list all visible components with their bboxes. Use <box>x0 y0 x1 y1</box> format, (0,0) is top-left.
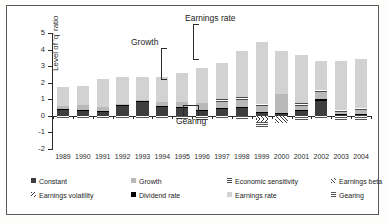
bar-segment-economic-sensitivity <box>315 90 327 92</box>
bar-segment-gearing <box>156 116 168 118</box>
bar-segment-gearing <box>116 116 128 118</box>
bar-segment-dividend-rate <box>275 113 287 114</box>
bar-segment-constant <box>216 109 228 116</box>
x-tick-mark <box>113 116 114 119</box>
bar-segment-gearing <box>236 116 248 119</box>
legend-item: Growth <box>131 177 162 185</box>
y-tick-label: -2 <box>25 145 45 153</box>
legend-item: Earnings volatility <box>31 191 93 199</box>
bar-group <box>355 33 367 149</box>
y-tick-label: 2 <box>25 79 45 87</box>
bar-segment-dividend-rate <box>236 107 248 108</box>
bar-segment-growth <box>57 106 69 109</box>
y-tick-mark <box>48 132 53 133</box>
legend-label: Dividend rate <box>139 192 180 199</box>
bar-segment-earnings-rate <box>315 61 327 90</box>
y-tick-mark <box>48 83 53 84</box>
bar-group <box>236 33 248 149</box>
bar-group <box>275 33 287 149</box>
x-tick-label: 2002 <box>311 153 331 160</box>
x-tick-label: 1996 <box>192 153 212 160</box>
chart-legend: ConstantGrowthEconomic sensitivityEarnin… <box>31 177 371 209</box>
bar-segment-gearing <box>335 116 347 120</box>
x-tick-mark <box>272 116 273 119</box>
bar-segment-constant <box>136 102 148 116</box>
bar-segment-gearing <box>355 116 367 120</box>
x-tick-mark <box>252 116 253 119</box>
bar-segment-earnings-rate <box>335 61 347 110</box>
bar-segment-gearing <box>256 122 268 127</box>
bar-segment-gearing <box>216 116 228 118</box>
legend-swatch-icon <box>31 178 36 183</box>
bar-group <box>295 33 307 149</box>
bar-segment-growth <box>275 94 287 113</box>
bar-segment-constant <box>156 106 168 116</box>
legend-swatch-icon <box>331 178 336 183</box>
bar-segment-earnings-rate <box>275 51 287 94</box>
y-tick-label: 5 <box>25 29 45 37</box>
x-tick-mark <box>152 116 153 119</box>
chart-screenshot: 543210-1-2 Level of 'q' ratio 1989199019… <box>0 0 387 223</box>
y-tick-label: 1 <box>25 95 45 103</box>
x-tick-mark <box>331 116 332 119</box>
bar-segment-constant <box>116 106 128 116</box>
bar-segment-constant <box>236 108 248 116</box>
bar-segment-growth <box>116 104 128 105</box>
annotation-earnings-rate: Earnings rate <box>185 13 236 23</box>
bar-segment-growth <box>156 102 168 105</box>
bar-segment-growth <box>315 92 327 99</box>
y-tick-mark <box>48 99 53 100</box>
x-tick-mark <box>232 116 233 119</box>
bar-group <box>256 33 268 149</box>
bar-segment-growth <box>355 110 367 113</box>
x-tick-label: 1999 <box>252 153 272 160</box>
x-tick-label: 1990 <box>73 153 93 160</box>
legend-item: Gearing <box>331 191 364 199</box>
x-tick-mark <box>73 116 74 119</box>
annotation-gearing: Gearing <box>176 116 206 126</box>
bar-segment-earnings-rate <box>97 79 109 107</box>
x-tick-mark <box>351 116 352 119</box>
x-tick-mark <box>172 116 173 119</box>
x-tick-mark <box>292 116 293 119</box>
bar-segment-gearing <box>295 116 307 120</box>
y-tick-label: 3 <box>25 62 45 70</box>
x-tick-label: 1995 <box>172 153 192 160</box>
bar-segment-dividend-rate <box>97 111 109 112</box>
x-tick-label: 2004 <box>351 153 371 160</box>
bar-segment-dividend-rate <box>77 110 89 111</box>
bar-segment-growth <box>256 106 268 112</box>
legend-label: Gearing <box>339 192 364 199</box>
x-tick-label: 1997 <box>212 153 232 160</box>
bar-segment-dividend-rate <box>156 106 168 107</box>
y-tick-label: 0 <box>25 112 45 120</box>
bar-segment-dividend-rate <box>256 112 268 113</box>
bar-segment-dividend-rate <box>116 104 128 106</box>
x-tick-label: 1991 <box>93 153 113 160</box>
bar-segment-earnings-rate <box>196 68 208 103</box>
bar-segment-earnings-rate <box>176 73 188 103</box>
bar-group <box>116 33 128 149</box>
bar-segment-gearing <box>77 116 89 118</box>
plot-area: 543210-1-2 Level of 'q' ratio 1989199019… <box>53 33 371 149</box>
legend-item: Economic sensitivity <box>227 177 298 185</box>
legend-swatch-icon <box>331 192 336 197</box>
bar-group <box>216 33 228 149</box>
x-tick-mark <box>212 116 213 119</box>
x-tick-mark <box>371 116 372 119</box>
bar-segment-dividend-rate <box>57 109 69 110</box>
bar-segment-dividend-rate <box>315 99 327 101</box>
legend-swatch-icon <box>131 178 136 183</box>
x-tick-mark <box>53 116 54 119</box>
bar-segment-earnings-rate <box>216 63 228 100</box>
x-tick-label: 2000 <box>272 153 292 160</box>
x-tick-mark <box>311 116 312 119</box>
bar-segment-earnings-rate <box>256 42 268 104</box>
legend-item: Constant <box>31 177 67 185</box>
bar-segment-earnings-rate <box>295 55 307 104</box>
bar-segment-dividend-rate <box>216 108 228 109</box>
bar-segment-earnings-rate <box>355 59 367 108</box>
bar-segment-earnings-rate <box>236 51 248 97</box>
bar-segment-gearing <box>57 116 69 118</box>
x-tick-label: 1998 <box>232 153 252 160</box>
